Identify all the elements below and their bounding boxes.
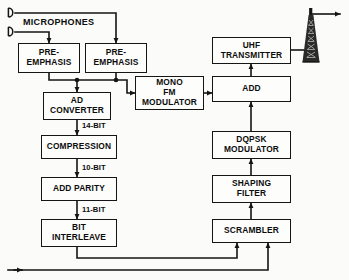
wire-mic2-to-preemphasis1: [15, 32, 49, 43]
block-label: ADD: [242, 84, 261, 94]
bus-label-14-bit: 14-BIT: [81, 121, 107, 130]
block-pre-emphasis-2[interactable]: PRE- EMPHASIS: [85, 43, 147, 73]
block-bit-interleave[interactable]: BIT INTERLEAVE: [41, 219, 117, 247]
block-label: SCRAMBLER: [224, 226, 279, 236]
block-label: UHF TRANSMITTER: [221, 41, 283, 61]
block-add[interactable]: ADD: [212, 76, 291, 102]
bus-label-11-bit: 11-BIT: [81, 205, 106, 214]
block-label: SHAPING FILTER: [232, 179, 271, 199]
block-label: PRE- EMPHASIS: [94, 48, 139, 68]
junction-dot-monofm-bus: [114, 78, 119, 83]
wire-external-input-to-scrambler: [14, 243, 268, 270]
block-label: DQPSK MODULATOR: [224, 135, 279, 155]
bus-junction-dots: [75, 78, 119, 83]
block-label: MONO FM MODULATOR: [142, 78, 197, 107]
block-shaping-filter[interactable]: SHAPING FILTER: [212, 175, 291, 203]
block-pre-emphasis-1[interactable]: PRE- EMPHASIS: [18, 43, 80, 73]
wire-pre1-to-bus: [49, 73, 77, 80]
block-dqpsk-modulator[interactable]: DQPSK MODULATOR: [212, 131, 291, 159]
microphones-label: MICROPHONES: [23, 17, 94, 27]
microphone-icon: [7, 26, 16, 37]
block-add-parity[interactable]: ADD PARITY: [41, 177, 117, 201]
block-label: PRE- EMPHASIS: [27, 48, 72, 68]
microphone-icon: [7, 7, 16, 18]
block-label: ADD PARITY: [53, 184, 105, 194]
wire-bus-to-monofm: [116, 80, 135, 93]
block-diagram-canvas: MICROPHONES PRE- EMPHASIS PRE- EMPHASIS …: [0, 0, 349, 280]
wire-pre2-to-bus: [77, 73, 116, 80]
block-label: AD CONVERTER: [50, 96, 104, 116]
bus-label-10-bit: 10-BIT: [81, 163, 107, 172]
block-ad-converter[interactable]: AD CONVERTER: [43, 92, 111, 120]
antenna-tower-icon: [300, 8, 322, 63]
block-uhf-transmitter[interactable]: UHF TRANSMITTER: [212, 37, 291, 64]
block-compression[interactable]: COMPRESSION: [41, 135, 117, 159]
block-label: BIT INTERLEAVE: [52, 223, 106, 243]
block-mono-fm-modulator[interactable]: MONO FM MODULATOR: [135, 76, 204, 110]
junction-dot-adc-bus: [75, 78, 80, 83]
block-scrambler[interactable]: SCRAMBLER: [212, 219, 291, 243]
block-label: COMPRESSION: [47, 142, 111, 152]
